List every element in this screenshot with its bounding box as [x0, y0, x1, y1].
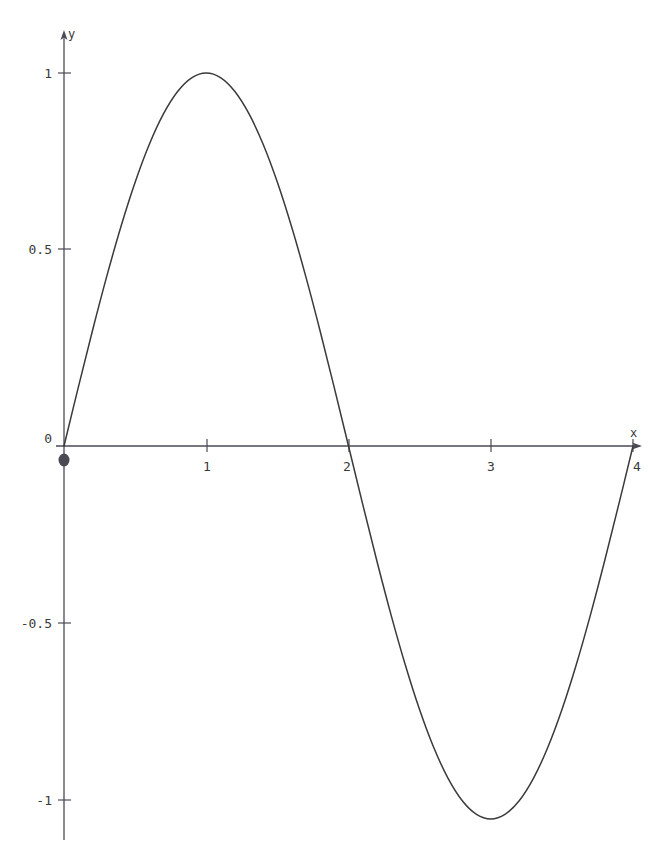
y-tick-label-0-5: 0.5 — [29, 242, 52, 257]
y-tick-label-neg-1: -1 — [36, 793, 52, 808]
y-tick-label-neg-0-5: -0.5 — [21, 616, 52, 631]
y-tick-label-0: 0 — [44, 431, 52, 446]
y-axis-label: y — [68, 27, 75, 41]
y-tick-labels: 1 0.5 0 -0.5 -1 — [21, 66, 52, 808]
x-tick-labels: 1 2 3 4 — [203, 459, 641, 474]
x-tick-label-2: 2 — [343, 459, 351, 474]
x-tick-label-1: 1 — [203, 459, 211, 474]
origin-marker-dot — [59, 454, 70, 467]
plot-canvas: y x 1 0.5 0 -0.5 -1 — [0, 0, 665, 852]
y-tick-label-1: 1 — [44, 66, 52, 81]
x-tick-label-4: 4 — [633, 459, 641, 474]
y-axis: y — [61, 27, 76, 840]
x-axis-label: x — [630, 426, 637, 440]
x-tick-label-3: 3 — [487, 459, 495, 474]
sine-plot-svg: y x 1 0.5 0 -0.5 -1 — [0, 0, 665, 852]
